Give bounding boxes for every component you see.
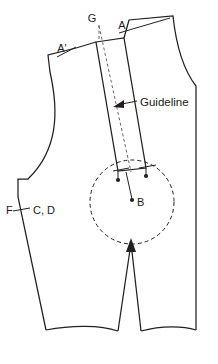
hem-right-leg	[141, 327, 196, 331]
tick-mark-f	[13, 208, 30, 211]
pattern-outline-right	[124, 16, 196, 330]
guideline-arrowhead	[113, 100, 124, 108]
inseam-right-leg	[131, 243, 141, 331]
label-c-d: C, D	[33, 204, 55, 216]
registration-tick-right	[139, 165, 156, 168]
centerline-to-point-b	[126, 172, 132, 199]
label-g: G	[88, 12, 97, 24]
strip-end-arrow-left-point	[116, 178, 120, 182]
crotch-notch-arrowhead	[126, 238, 136, 252]
pattern-diagram: G A A' F C, D B Guideline	[0, 0, 218, 364]
hem-left-leg	[46, 326, 118, 331]
label-a: A	[118, 19, 126, 31]
strip-end-arrow-right-point	[144, 174, 148, 178]
inseam-left-leg	[118, 243, 131, 331]
label-f: F	[6, 204, 13, 216]
leader-line-a	[119, 18, 170, 33]
pattern-outline-left	[18, 42, 96, 330]
label-b: B	[137, 196, 144, 208]
pattern-drawing-canvas: G A A' F C, D B Guideline	[0, 0, 218, 364]
label-guideline: Guideline	[140, 96, 189, 108]
label-a-prime: A'	[57, 42, 66, 54]
